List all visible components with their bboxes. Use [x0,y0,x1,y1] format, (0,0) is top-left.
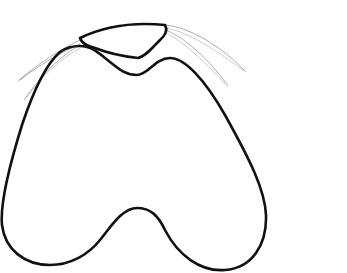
cap-fragment [80,24,166,58]
main-outline [2,46,266,270]
left-fibers [18,40,80,100]
line-drawing [0,0,347,273]
right-fibers [166,25,246,86]
